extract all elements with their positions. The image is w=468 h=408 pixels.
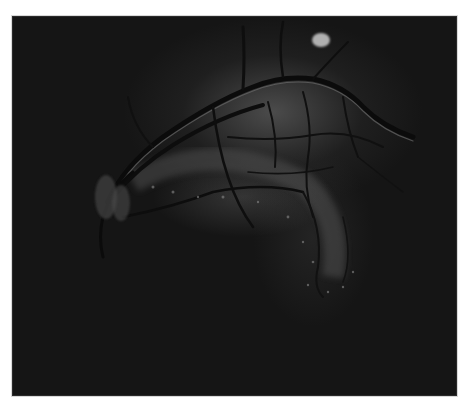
retina-vessels xyxy=(13,17,456,395)
fundus-image-frame: grayscale retinal fundus photograph xyxy=(12,16,457,396)
bright-lesion xyxy=(312,33,330,47)
